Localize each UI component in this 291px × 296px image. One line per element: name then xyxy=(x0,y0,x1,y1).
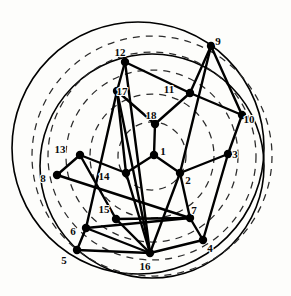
node-label-8: 8 xyxy=(40,172,46,184)
node-label-11: 11 xyxy=(164,83,174,95)
node-label-7: 7 xyxy=(191,204,197,216)
node-3 xyxy=(224,150,232,158)
node-label-2: 2 xyxy=(185,174,191,186)
edge-2-9 xyxy=(180,46,211,173)
node-2 xyxy=(176,169,184,177)
graph-figure: 123456789101112131415161718 xyxy=(0,0,291,296)
node-label-13: 13 xyxy=(55,143,67,155)
node-label-10: 10 xyxy=(244,113,256,125)
node-label-16: 16 xyxy=(140,260,152,272)
edge-3-4 xyxy=(203,154,228,240)
node-16 xyxy=(146,249,154,257)
node-4 xyxy=(199,236,207,244)
edge-11-12 xyxy=(125,62,190,93)
solid-boundary-circle-1 xyxy=(12,22,264,274)
node-14 xyxy=(122,169,130,177)
node-label-14: 14 xyxy=(99,170,111,182)
node-5 xyxy=(73,246,81,254)
node-8 xyxy=(53,171,61,179)
graph-canvas: 123456789101112131415161718 xyxy=(0,0,291,296)
edge-2-3 xyxy=(180,154,228,173)
node-label-1: 1 xyxy=(160,145,166,157)
edge-5-16 xyxy=(77,250,150,253)
edge-1-2 xyxy=(154,155,180,173)
node-label-15: 15 xyxy=(99,203,111,215)
node-label-5: 5 xyxy=(61,254,67,266)
edge-8-13 xyxy=(57,155,80,175)
node-11 xyxy=(186,89,194,97)
node-label-12: 12 xyxy=(115,46,127,58)
edge-7-15 xyxy=(116,218,190,219)
node-13 xyxy=(76,151,84,159)
node-label-6: 6 xyxy=(70,225,76,237)
node-label-4: 4 xyxy=(207,242,213,254)
edge-6-16 xyxy=(86,228,150,253)
node-label-18: 18 xyxy=(146,109,158,121)
node-1 xyxy=(150,151,158,159)
edge-1-18 xyxy=(154,124,155,155)
node-label-3: 3 xyxy=(232,148,238,160)
node-label-9: 9 xyxy=(215,35,221,47)
node-15 xyxy=(112,215,120,223)
node-label-17: 17 xyxy=(117,85,129,97)
node-9 xyxy=(207,42,215,50)
node-12 xyxy=(121,58,129,66)
node-6 xyxy=(82,224,90,232)
node-18 xyxy=(151,120,159,128)
